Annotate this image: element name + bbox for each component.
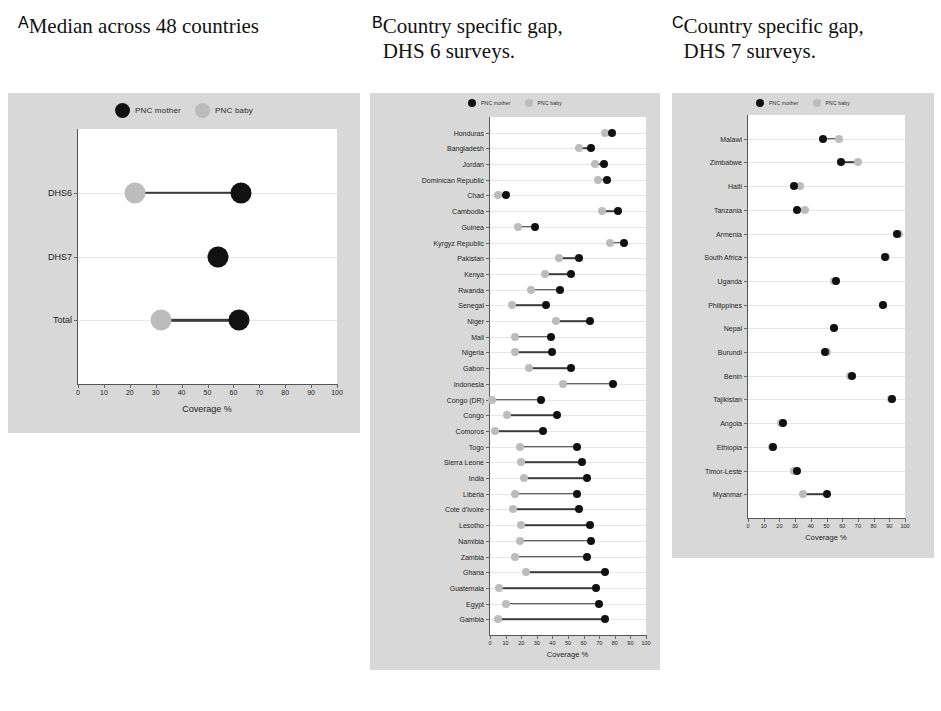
y-tick — [744, 305, 748, 306]
y-tick — [744, 423, 748, 424]
x-tick — [779, 518, 780, 522]
x-tick — [858, 518, 859, 522]
data-point-baby — [801, 206, 809, 214]
gridline — [748, 210, 905, 211]
data-point-baby — [835, 135, 843, 143]
y-tick — [744, 234, 748, 235]
data-point-mother — [879, 301, 887, 309]
y-tick — [744, 376, 748, 377]
x-axis-tick-label: 80 — [871, 523, 877, 529]
x-tick — [874, 518, 875, 522]
data-point-mother — [823, 490, 831, 498]
gridline — [748, 281, 905, 282]
y-axis-label: Angola — [720, 420, 742, 427]
x-axis-tick-label: 50 — [823, 523, 829, 529]
y-tick — [744, 399, 748, 400]
x-axis-tick-label: 20 — [776, 523, 782, 529]
y-tick — [744, 447, 748, 448]
x-axis-tick-label: 70 — [855, 523, 861, 529]
data-point-mother — [832, 277, 840, 285]
legend-dot-baby-icon — [813, 99, 821, 107]
y-axis-label: Haiti — [728, 183, 742, 190]
y-axis-label: South Africa — [704, 254, 742, 261]
y-axis-label: Malawi — [720, 135, 742, 142]
y-axis-label: Burundi — [718, 349, 742, 356]
x-axis-tick-label: 0 — [746, 523, 749, 529]
y-tick — [744, 494, 748, 495]
legend-label-mother: PNC mother — [769, 100, 799, 106]
legend-item-mother: PNC mother — [756, 99, 799, 107]
x-axis-tick-label: 40 — [808, 523, 814, 529]
y-tick — [744, 210, 748, 211]
data-point-mother — [888, 395, 896, 403]
y-axis-label: Tajikistan — [713, 396, 742, 403]
legend-label-baby: PNC baby — [826, 100, 850, 106]
y-tick — [744, 186, 748, 187]
panel-c-title: Country specific gap, DHS 7 surveys. — [684, 14, 864, 64]
gridline — [748, 376, 905, 377]
x-axis-tick-label: 100 — [900, 523, 909, 529]
legend-item-baby: PNC baby — [813, 99, 850, 107]
data-point-mother — [837, 158, 845, 166]
x-tick — [748, 518, 749, 522]
panel-c-xaxis-title: Coverage % — [747, 533, 905, 542]
y-tick — [744, 162, 748, 163]
data-point-mother — [830, 324, 838, 332]
y-axis-label: Myanmar — [713, 491, 742, 498]
gridline — [748, 328, 905, 329]
x-axis-tick-label: 90 — [886, 523, 892, 529]
legend-dot-mother-icon — [756, 99, 764, 107]
gridline — [748, 399, 905, 400]
data-point-mother — [893, 230, 901, 238]
panel-c: C Country specific gap, DHS 7 surveys. P… — [0, 0, 941, 711]
y-tick — [744, 328, 748, 329]
data-point-mother — [819, 135, 827, 143]
data-point-mother — [881, 253, 889, 261]
panel-c-heading: C Country specific gap, DHS 7 surveys. — [672, 14, 941, 64]
y-tick — [744, 281, 748, 282]
gridline — [748, 471, 905, 472]
gridline — [748, 162, 905, 163]
panel-c-plot: PNC mother PNC baby MalawiZimbabweHaitiT… — [672, 93, 934, 558]
y-axis-label: Tanzania — [714, 206, 742, 213]
data-point-baby — [854, 158, 862, 166]
figure-root: A Median across 48 countries PNC mother … — [0, 0, 941, 711]
y-axis-label: Zimbabwe — [710, 159, 742, 166]
y-axis-label: Uganda — [717, 277, 742, 284]
data-point-mother — [793, 206, 801, 214]
panel-c-letter: C — [672, 14, 684, 32]
y-tick — [744, 471, 748, 472]
x-axis-tick-label: 10 — [761, 523, 767, 529]
data-point-mother — [769, 443, 777, 451]
y-axis-label: Benin — [724, 372, 742, 379]
x-axis-tick-label: 30 — [792, 523, 798, 529]
x-tick — [889, 518, 890, 522]
y-tick — [744, 257, 748, 258]
data-point-mother — [848, 372, 856, 380]
x-tick — [811, 518, 812, 522]
data-point-mother — [821, 348, 829, 356]
data-point-mother — [793, 467, 801, 475]
gridline — [748, 234, 905, 235]
gridline — [748, 186, 905, 187]
x-tick — [905, 518, 906, 522]
panel-c-legend: PNC mother PNC baby — [672, 99, 934, 107]
x-tick — [795, 518, 796, 522]
gridline — [748, 423, 905, 424]
data-point-baby — [799, 490, 807, 498]
y-axis-label: Ethiopia — [717, 443, 742, 450]
panel-c-axes: MalawiZimbabweHaitiTanzaniaArmeniaSouth … — [747, 115, 905, 519]
x-tick — [764, 518, 765, 522]
data-point-mother — [779, 419, 787, 427]
y-axis-label: Timor-Leste — [705, 467, 742, 474]
data-point-mother — [790, 182, 798, 190]
x-axis-tick-label: 60 — [839, 523, 845, 529]
y-tick — [744, 352, 748, 353]
y-axis-label: Nepal — [724, 325, 742, 332]
y-axis-label: Philippines — [708, 301, 742, 308]
x-tick — [842, 518, 843, 522]
y-axis-label: Armenia — [716, 230, 742, 237]
y-tick — [744, 139, 748, 140]
x-tick — [827, 518, 828, 522]
